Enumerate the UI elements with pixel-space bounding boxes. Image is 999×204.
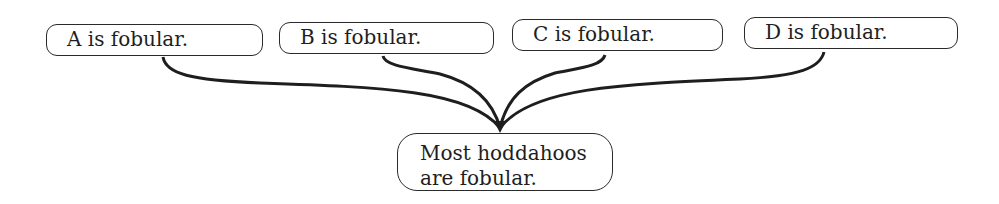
premise-c-label: C is fobular.: [533, 22, 722, 46]
conclusion-line-2: are fobular.: [420, 166, 612, 191]
edge-c-to-conclusion: [500, 55, 605, 128]
argument-diagram: A is fobular. B is fobular. C is fobular…: [0, 0, 999, 204]
conclusion-node: Most hoddahoos are fobular.: [397, 133, 613, 191]
premise-node-b: B is fobular.: [279, 22, 494, 54]
premise-a-label: A is fobular.: [67, 27, 262, 51]
arrowhead-icon: [494, 121, 506, 133]
edge-a-to-conclusion: [163, 57, 500, 128]
premise-node-a: A is fobular.: [46, 24, 263, 56]
premise-node-c: C is fobular.: [512, 19, 723, 51]
premise-d-label: D is fobular.: [765, 20, 957, 44]
edge-d-to-conclusion: [500, 52, 824, 128]
conclusion-line-1: Most hoddahoos: [420, 141, 612, 166]
premise-b-label: B is fobular.: [300, 25, 493, 49]
premise-node-d: D is fobular.: [744, 17, 958, 49]
